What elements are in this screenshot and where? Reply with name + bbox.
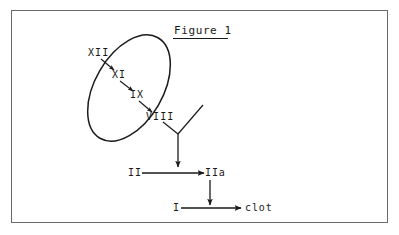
arrow-xi-to-ix xyxy=(120,81,133,91)
figure-page: Figure 1 XII XI IX VIII II IIa I clot xyxy=(0,0,399,235)
extrinsic-pathway-line xyxy=(178,105,203,134)
factor-label-viii: VIII xyxy=(146,111,174,122)
arrow-viii-to-junction xyxy=(163,122,178,134)
node-label-i: I xyxy=(173,202,180,213)
figure-title: Figure 1 xyxy=(174,24,232,37)
factor-label-xi: XI xyxy=(112,69,126,80)
node-label-clot: clot xyxy=(245,202,273,213)
node-label-iia: IIa xyxy=(205,167,226,178)
cascade-diagram: Figure 1 XII XI IX VIII II IIa I clot xyxy=(0,0,399,235)
node-label-ii: II xyxy=(128,167,142,178)
factor-label-xii: XII xyxy=(88,47,109,58)
